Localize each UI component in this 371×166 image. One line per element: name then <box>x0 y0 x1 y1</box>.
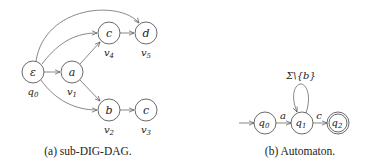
automaton-figure: a Σ\{b} c q0 q1 q2 (b) Automaton. <box>239 70 349 158</box>
edge-q0-v4 <box>42 33 97 64</box>
node-symbol: b <box>105 104 112 117</box>
state-q1: q1 <box>291 112 313 134</box>
node-v4: c v4 <box>98 22 120 60</box>
node-v1: a v1 <box>61 61 83 99</box>
transition-label-sigma: Σ\{b} <box>285 70 316 81</box>
node-label: v3 <box>141 124 152 137</box>
node-label: v1 <box>67 86 77 99</box>
node-symbol: a <box>69 66 76 79</box>
caption-b: (b) Automaton. <box>265 145 335 158</box>
node-v3: c v3 <box>135 99 157 137</box>
transition-q1-loop <box>294 84 309 113</box>
node-label: v4 <box>104 47 114 60</box>
sub-dig-dag-figure: ε q0 a v1 c v4 d v5 b v2 c v3 (a) sub-D <box>22 10 157 158</box>
transition-label-c: c <box>316 110 322 121</box>
transition-label-a: a <box>280 110 286 121</box>
node-symbol: ε <box>30 66 36 79</box>
node-label: q0 <box>28 86 39 99</box>
node-symbol: c <box>106 27 112 40</box>
edge-v1-v4 <box>80 42 100 64</box>
figure-canvas: ε q0 a v1 c v4 d v5 b v2 c v3 (a) sub-D <box>0 0 371 166</box>
node-v2: b v2 <box>98 99 120 137</box>
node-symbol: c <box>143 104 149 117</box>
node-v5: d v5 <box>135 22 157 60</box>
node-label: v5 <box>141 47 152 60</box>
node-symbol: d <box>142 27 149 40</box>
state-q2-accepting: q2 <box>327 112 349 134</box>
caption-a: (a) sub-DIG-DAG. <box>44 145 132 158</box>
node-q0: ε q0 <box>22 61 44 99</box>
edge-v1-v2 <box>80 80 100 101</box>
state-q0: q0 <box>254 112 276 134</box>
node-label: v2 <box>104 124 115 137</box>
